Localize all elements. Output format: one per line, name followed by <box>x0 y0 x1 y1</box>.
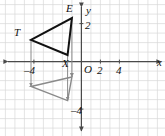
y-tick-label--4: –4 <box>70 104 83 116</box>
x-tick-label-4: 4 <box>116 64 122 76</box>
vertex-label-x: X <box>61 57 70 69</box>
vertex-label-t: T <box>14 26 21 38</box>
origin-label: O <box>84 63 92 75</box>
y-axis-label: y <box>85 4 91 16</box>
x-tick-label--4: –4 <box>23 64 36 76</box>
x-tick-label-2: 2 <box>97 64 103 76</box>
y-tick-label-2: 2 <box>85 19 91 31</box>
coordinate-plane-figure: T E X y x O –4 2 4 2 –4 <box>0 0 165 136</box>
coordinate-graph-screenshot: T E X y x O –4 2 4 2 –4 <box>0 0 165 136</box>
vertex-label-e: E <box>65 2 73 14</box>
x-axis-label: x <box>156 56 162 68</box>
